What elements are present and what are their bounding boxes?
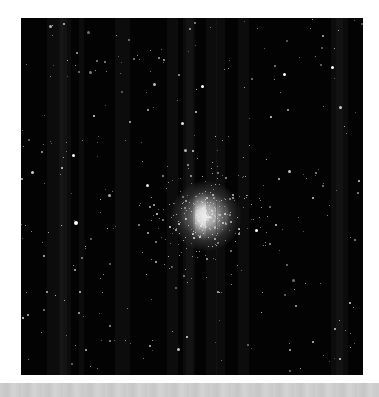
cluster-star (207, 217, 208, 218)
cluster-star (166, 188, 167, 189)
cluster-star (187, 282, 188, 283)
star (289, 343, 290, 344)
star (323, 183, 324, 184)
star (243, 157, 244, 158)
star (142, 161, 143, 162)
star (181, 122, 184, 125)
star (22, 130, 23, 131)
star (104, 61, 106, 63)
cluster-star (263, 185, 264, 186)
star (163, 59, 165, 61)
star (334, 328, 336, 330)
cluster-star (193, 203, 194, 204)
star (306, 178, 307, 179)
star (102, 292, 103, 293)
star (42, 242, 43, 243)
cluster-star (212, 162, 213, 163)
star (108, 194, 111, 197)
cluster-star (197, 158, 198, 159)
star (74, 269, 76, 271)
cluster-star (263, 245, 264, 246)
star (274, 65, 276, 67)
cluster-star (201, 220, 202, 221)
star (178, 74, 180, 76)
star (31, 171, 34, 174)
star (151, 299, 152, 300)
star (109, 340, 111, 342)
cluster-star (217, 166, 218, 167)
cluster-star (197, 257, 198, 258)
star (142, 252, 143, 253)
sensor-stripe (216, 18, 226, 375)
star (278, 178, 280, 180)
cluster-star (179, 255, 180, 256)
cluster-star (163, 209, 164, 210)
star (231, 284, 232, 285)
star (150, 50, 151, 51)
star (282, 229, 283, 230)
star (186, 336, 188, 338)
star (175, 287, 177, 289)
star (140, 203, 141, 204)
cluster-star (238, 175, 239, 176)
cluster-star (170, 243, 171, 244)
star (187, 164, 189, 166)
cluster-star (217, 242, 219, 244)
cluster-star (205, 181, 206, 182)
cluster-star (203, 227, 204, 228)
star (143, 358, 144, 359)
star (310, 28, 311, 29)
cluster-star (192, 233, 194, 235)
cluster-star (199, 251, 200, 252)
star (261, 312, 262, 313)
star (265, 245, 266, 246)
cluster-star (183, 202, 184, 203)
star (274, 79, 275, 80)
bright-star (283, 73, 286, 76)
star (295, 305, 297, 307)
star (300, 368, 301, 369)
cluster-star (217, 228, 218, 229)
star (41, 151, 43, 153)
cluster-star (155, 241, 157, 243)
star (196, 89, 197, 90)
bright-star (74, 221, 78, 225)
star (97, 368, 98, 369)
cluster-star (162, 219, 164, 221)
star (106, 71, 107, 72)
star (103, 274, 104, 275)
cluster-star (197, 210, 198, 211)
star (99, 313, 100, 314)
star (21, 178, 23, 180)
star (89, 71, 92, 74)
star (146, 184, 149, 187)
star (339, 358, 341, 360)
cluster-star (230, 221, 232, 223)
cluster-star (182, 196, 184, 198)
cluster-star (267, 216, 268, 217)
cluster-star (202, 193, 203, 194)
star (109, 263, 111, 265)
star (358, 180, 360, 182)
cluster-star (215, 216, 216, 217)
cluster-star (186, 210, 187, 211)
star (327, 215, 328, 216)
sensor-stripe (336, 18, 343, 375)
star (249, 118, 250, 119)
star (150, 71, 151, 72)
star (322, 185, 324, 187)
star (286, 40, 288, 42)
cluster-star (232, 194, 234, 196)
star (257, 28, 258, 29)
star (361, 23, 363, 25)
cluster-star (209, 228, 210, 229)
cluster-star (151, 220, 152, 221)
cluster-star (230, 250, 232, 252)
cluster-star (179, 233, 180, 234)
cluster-star (218, 214, 219, 215)
star (146, 274, 147, 275)
star (329, 361, 330, 362)
cluster-star (205, 255, 206, 256)
star (97, 142, 98, 143)
star (98, 136, 99, 137)
